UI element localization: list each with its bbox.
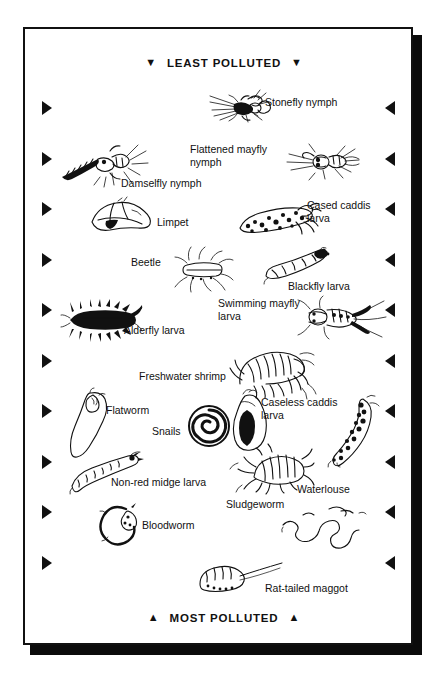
left-arrow-row-5 xyxy=(42,303,52,317)
label-blackfly-larva: Blackfly larva xyxy=(288,280,350,293)
right-arrow-row-2 xyxy=(385,152,395,166)
left-arrow-row-10 xyxy=(42,556,52,570)
label-flatworm: Flatworm xyxy=(106,404,149,417)
art-flattened-mayfly-nymph xyxy=(285,140,365,182)
label-bloodworm: Bloodworm xyxy=(142,519,195,532)
label-cased-caddis-larva: Cased caddis larva xyxy=(307,199,371,225)
art-limpet xyxy=(88,196,156,236)
most-polluted-text: MOST POLLUTED xyxy=(170,612,279,624)
pollution-indicator-diagram: ▼LEAST POLLUTED▼ ▲MOST POLLUTED▲ xyxy=(0,0,448,695)
up-triangle-icon: ▲ xyxy=(148,611,160,623)
label-rat-tailed-maggot: Rat-tailed maggot xyxy=(265,582,348,595)
left-arrow-row-2 xyxy=(42,152,52,166)
art-sludgeworm xyxy=(281,503,367,549)
art-beetle xyxy=(173,245,235,297)
down-triangle-icon: ▼ xyxy=(291,56,303,68)
least-polluted-header: ▼LEAST POLLUTED▼ xyxy=(0,56,448,69)
left-arrow-row-9 xyxy=(42,505,52,519)
left-arrow-row-8 xyxy=(42,455,52,469)
right-arrow-row-3 xyxy=(385,202,395,216)
label-non-red-midge-larva: Non-red midge larva xyxy=(111,476,206,489)
right-arrow-row-9 xyxy=(385,505,395,519)
label-beetle: Beetle xyxy=(131,256,161,269)
art-snails xyxy=(185,388,269,454)
least-polluted-text: LEAST POLLUTED xyxy=(167,57,281,69)
art-bloodworm xyxy=(98,501,140,545)
most-polluted-footer: ▲MOST POLLUTED▲ xyxy=(0,611,448,624)
right-arrow-row-8 xyxy=(385,455,395,469)
label-snails: Snails xyxy=(152,425,181,438)
label-caseless-caddis-larva: Caseless caddis larva xyxy=(261,396,337,422)
label-alderfly-larva: Alderfly larva xyxy=(124,324,185,337)
label-swimming-mayfly-larva: Swimming mayfly larva xyxy=(218,297,300,323)
left-arrow-row-6 xyxy=(42,354,52,368)
label-waterlouse: Waterlouse xyxy=(297,483,350,496)
label-flattened-mayfly-nymph: Flattened mayfly nymph xyxy=(190,143,267,169)
right-arrow-row-6 xyxy=(385,354,395,368)
right-arrow-row-1 xyxy=(385,101,395,115)
up-triangle-icon: ▲ xyxy=(288,611,300,623)
right-arrow-row-7 xyxy=(385,404,395,418)
left-arrow-row-7 xyxy=(42,404,52,418)
label-limpet: Limpet xyxy=(157,216,189,229)
left-arrow-row-4 xyxy=(42,253,52,267)
down-triangle-icon: ▼ xyxy=(145,56,157,68)
label-stonefly-nymph: Stonefly nymph xyxy=(265,96,337,109)
art-flatworm xyxy=(61,387,117,459)
art-swimming-mayfly-larva xyxy=(296,295,388,343)
left-arrow-row-3 xyxy=(42,202,52,216)
right-arrow-row-4 xyxy=(385,253,395,267)
label-damselfly-nymph: Damselfly nymph xyxy=(121,177,202,190)
left-arrow-row-1 xyxy=(42,101,52,115)
label-sludgeworm: Sludgeworm xyxy=(226,498,284,511)
right-arrow-row-10 xyxy=(385,556,395,570)
label-freshwater-shrimp: Freshwater shrimp xyxy=(139,370,226,383)
